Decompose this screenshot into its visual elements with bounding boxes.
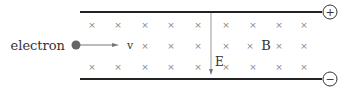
svg-text:×: × [222, 20, 230, 30]
velocity-selector-diagram: + − × × × × × × × × × × × × × × × × × × … [0, 0, 354, 90]
svg-text:×: × [88, 62, 96, 72]
electron-label: electron [11, 38, 66, 53]
magnetic-field-label: B [261, 38, 271, 53]
svg-text:+: + [325, 6, 334, 19]
svg-text:×: × [167, 20, 175, 30]
svg-text:×: × [300, 20, 308, 30]
svg-text:×: × [275, 20, 283, 30]
svg-text:×: × [300, 41, 308, 51]
svg-text:×: × [194, 62, 202, 72]
svg-text:×: × [167, 62, 175, 72]
svg-text:×: × [300, 62, 308, 72]
svg-text:×: × [194, 20, 202, 30]
svg-text:×: × [141, 20, 149, 30]
svg-text:×: × [141, 62, 149, 72]
svg-text:×: × [114, 62, 122, 72]
velocity-arrow [80, 43, 119, 47]
svg-text:×: × [275, 62, 283, 72]
electric-field-label: E [215, 55, 224, 69]
svg-text:×: × [114, 20, 122, 30]
svg-text:×: × [88, 20, 96, 30]
electron-dot [72, 41, 81, 50]
svg-text:×: × [222, 41, 230, 51]
svg-text:×: × [167, 41, 175, 51]
svg-text:×: × [249, 62, 257, 72]
magnetic-field-crosses: × × × × × × × × × × × × × × × × × × × × … [88, 20, 308, 72]
svg-text:×: × [141, 41, 149, 51]
svg-text:×: × [194, 41, 202, 51]
positive-terminal: + [323, 5, 337, 19]
svg-text:×: × [275, 41, 283, 51]
electric-field-arrow [209, 13, 213, 75]
svg-text:×: × [249, 20, 257, 30]
svg-text:×: × [246, 41, 254, 51]
svg-text:−: − [325, 73, 334, 86]
velocity-label: v [126, 39, 134, 52]
negative-terminal: − [323, 72, 337, 86]
